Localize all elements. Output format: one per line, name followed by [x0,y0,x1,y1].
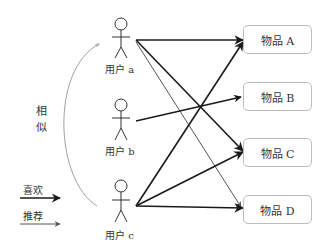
similarity-curve [64,44,99,206]
legend-recommend-label: 推荐 [23,208,43,223]
similarity-char-1: 相 [35,104,47,120]
user-c-label: 用户 c [105,227,134,242]
edge-c-D [136,206,243,208]
edges [136,40,243,208]
item-b-box: 物品 B [243,82,312,111]
item-c-box: 物品 C [243,138,312,167]
user-b-figure [112,99,130,140]
item-d-label: 物品 D [260,202,294,218]
user-a-label: 用户 a [105,61,134,76]
item-b-label: 物品 B [261,89,295,105]
item-a-label: 物品 A [261,32,294,48]
legend-like-label: 喜欢 [23,182,43,197]
user-c-figure [112,180,130,222]
user-a-figure [112,18,130,58]
edge-b-B [136,97,241,121]
user-b-label: 用户 b [105,143,135,158]
similarity-char-2: 似 [35,120,47,136]
similarity-label: 相 似 [35,104,47,136]
edge-a-C [136,40,243,151]
edge-c-C [136,152,243,206]
item-a-box: 物品 A [243,25,312,54]
item-d-box: 物品 D [243,195,312,224]
item-c-label: 物品 C [261,145,295,161]
